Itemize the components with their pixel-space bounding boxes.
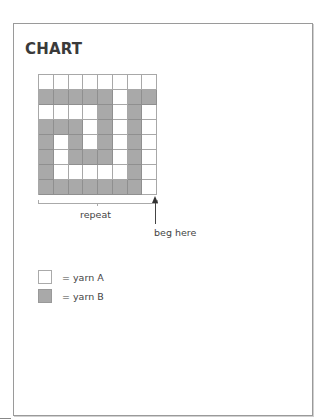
chart-cell bbox=[69, 90, 84, 105]
repeat-bracket bbox=[38, 200, 158, 204]
chart-cell bbox=[39, 135, 54, 150]
yarn-b-swatch bbox=[38, 289, 52, 303]
chart-cell bbox=[142, 150, 157, 165]
chart-cell bbox=[39, 90, 54, 105]
chart-cell bbox=[142, 135, 157, 150]
chart-cell bbox=[39, 150, 54, 165]
corner-mark bbox=[0, 418, 11, 419]
knitting-chart-grid bbox=[38, 74, 157, 195]
chart-cell bbox=[83, 150, 98, 165]
chart-cell bbox=[98, 150, 113, 165]
chart-cell bbox=[83, 90, 98, 105]
chart-cell bbox=[54, 105, 69, 120]
chart-title: CHART bbox=[25, 40, 82, 58]
chart-cell bbox=[98, 180, 113, 195]
chart-cell bbox=[83, 75, 98, 90]
arrow-head-icon bbox=[152, 196, 158, 203]
chart-cell bbox=[113, 75, 128, 90]
chart-cell bbox=[69, 135, 84, 150]
chart-cell bbox=[98, 105, 113, 120]
chart-cell bbox=[83, 120, 98, 135]
chart-cell bbox=[83, 165, 98, 180]
repeat-label: repeat bbox=[80, 209, 111, 220]
chart-cell bbox=[69, 105, 84, 120]
chart-cell bbox=[128, 120, 143, 135]
chart-cell bbox=[98, 120, 113, 135]
chart-cell bbox=[142, 90, 157, 105]
chart-cell bbox=[39, 105, 54, 120]
chart-cell bbox=[113, 150, 128, 165]
beg-here-label: beg here bbox=[154, 227, 196, 238]
chart-cell bbox=[113, 105, 128, 120]
chart-cell bbox=[69, 180, 84, 195]
chart-cell bbox=[142, 105, 157, 120]
chart-cell bbox=[142, 120, 157, 135]
chart-cell bbox=[54, 90, 69, 105]
legend-item-yarn-b: = yarn B bbox=[38, 288, 104, 304]
legend-label: = yarn A bbox=[62, 272, 104, 283]
chart-cell bbox=[83, 105, 98, 120]
chart-cell bbox=[54, 165, 69, 180]
chart-cell bbox=[39, 75, 54, 90]
chart-cell bbox=[69, 120, 84, 135]
chart-cell bbox=[113, 165, 128, 180]
chart-cell bbox=[128, 90, 143, 105]
chart-cell bbox=[98, 135, 113, 150]
chart-cell bbox=[83, 135, 98, 150]
chart-cell bbox=[98, 165, 113, 180]
legend: = yarn A = yarn B bbox=[38, 269, 104, 307]
chart-cell bbox=[39, 165, 54, 180]
chart-cell bbox=[113, 180, 128, 195]
legend-item-yarn-a: = yarn A bbox=[38, 269, 104, 285]
chart-cell bbox=[128, 105, 143, 120]
chart-cell bbox=[128, 165, 143, 180]
yarn-a-swatch bbox=[38, 270, 52, 284]
chart-cell bbox=[54, 120, 69, 135]
chart-cell bbox=[83, 180, 98, 195]
chart-cell bbox=[128, 180, 143, 195]
chart-cell bbox=[128, 150, 143, 165]
chart-cell bbox=[54, 135, 69, 150]
chart-cell bbox=[98, 90, 113, 105]
chart-cell bbox=[128, 75, 143, 90]
chart-cell bbox=[54, 180, 69, 195]
chart-cell bbox=[69, 165, 84, 180]
chart-cell bbox=[142, 165, 157, 180]
chart-cell bbox=[69, 75, 84, 90]
chart-cell bbox=[113, 120, 128, 135]
chart-cell bbox=[39, 180, 54, 195]
repeat-tick bbox=[97, 203, 98, 206]
chart-cell bbox=[54, 75, 69, 90]
chart-cell bbox=[142, 75, 157, 90]
chart-cell bbox=[69, 150, 84, 165]
chart-cell bbox=[113, 135, 128, 150]
chart-cell bbox=[39, 120, 54, 135]
arrow-up-icon bbox=[155, 200, 156, 224]
chart-cell bbox=[98, 75, 113, 90]
chart-cell bbox=[128, 135, 143, 150]
chart-cell bbox=[54, 150, 69, 165]
chart-cell bbox=[142, 180, 157, 195]
chart-cell bbox=[113, 90, 128, 105]
legend-label: = yarn B bbox=[62, 291, 104, 302]
